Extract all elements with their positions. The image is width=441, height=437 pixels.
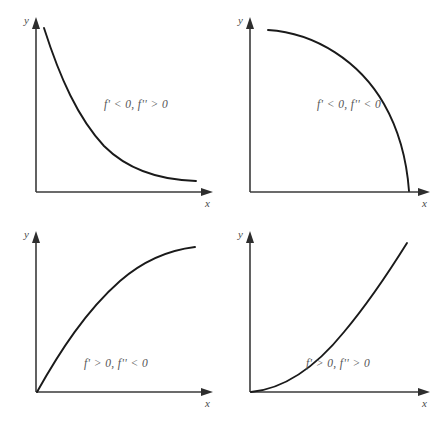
curve-decreasing-concave [268,30,409,191]
y-axis-label: y [23,228,29,240]
x-axis-arrow-icon [201,188,213,196]
x-axis-label: x [421,197,427,209]
y-axis-arrow-icon [246,231,254,243]
x-axis-label: x [204,397,210,409]
y-axis-arrow-icon [32,231,40,243]
x-axis-arrow-icon [418,388,430,396]
condition-label: f' > 0, f'' < 0 [84,357,148,370]
condition-label: f' < 0, f'' < 0 [317,98,381,111]
y-axis-label: y [23,14,29,26]
y-axis-arrow-icon [32,17,40,29]
panel-bottom-left: y x f' > 0, f'' < 0 [0,219,220,437]
condition-label: f' < 0, f'' > 0 [104,98,168,111]
condition-label: f' > 0, f'' > 0 [306,357,370,370]
y-axis-label: y [237,228,243,240]
panel-bottom-right: y x f' > 0, f'' > 0 [220,219,440,437]
x-axis-arrow-icon [418,188,430,196]
curve-increasing-convex [251,243,407,392]
x-axis-label: x [421,397,427,409]
curve-increasing-concave [37,247,195,392]
panel-top-left: y x f' < 0, f'' > 0 [0,0,220,218]
x-axis-label: x [204,197,210,209]
x-axis-arrow-icon [201,388,213,396]
derivative-sign-figure: y x f' < 0, f'' > 0 y x f' < 0, f'' < 0 [0,0,441,437]
y-axis-label: y [237,14,243,26]
panel-top-right: y x f' < 0, f'' < 0 [220,0,440,218]
y-axis-arrow-icon [246,17,254,29]
